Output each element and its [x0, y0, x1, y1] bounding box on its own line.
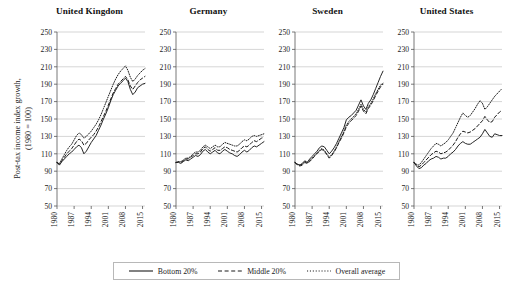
x-tick-label: 1980: [288, 212, 297, 227]
y-tick-label: 70: [163, 184, 171, 193]
legend-item[interactable]: Overall average: [306, 267, 386, 276]
y-tick-label: 90: [282, 167, 290, 176]
x-tick-label: 1980: [169, 212, 178, 227]
y-tick-label: 210: [41, 63, 53, 72]
y-tick-label: 190: [398, 80, 410, 89]
legend-key-solid-icon: [128, 267, 154, 275]
x-tick-label: 1987: [305, 212, 314, 227]
y-tick-label: 90: [401, 167, 409, 176]
x-tick-label: 2001: [220, 212, 229, 227]
y-tick-label: 150: [279, 115, 291, 124]
x-tick-label: 2001: [101, 212, 110, 227]
x-tick-label: 1987: [424, 212, 433, 227]
x-tick-label: 2015: [255, 212, 264, 227]
y-tick-label: 250: [279, 28, 291, 37]
panel-title: United States: [387, 6, 506, 16]
y-tick-label: 70: [44, 184, 52, 193]
y-tick-label: 50: [401, 202, 409, 211]
y-tick-label: 110: [279, 150, 290, 159]
y-tick-label: 250: [160, 28, 172, 37]
y-tick-label: 230: [398, 45, 410, 54]
x-tick-label: 2008: [118, 212, 127, 227]
y-tick-label: 130: [41, 132, 53, 141]
series-line-overall-average: [295, 83, 383, 165]
y-tick-label: 110: [398, 150, 409, 159]
y-tick-label: 210: [279, 63, 291, 72]
y-tick-label: 190: [160, 80, 172, 89]
y-tick-label: 190: [41, 80, 53, 89]
y-tick-label: 170: [279, 97, 291, 106]
y-tick-label: 90: [44, 167, 52, 176]
chart-legend: Bottom 20%Middle 20%Overall average: [113, 262, 400, 280]
series-line-bottom-20: [176, 142, 264, 164]
y-tick-label: 110: [41, 150, 52, 159]
x-tick-label: 2015: [136, 212, 145, 227]
x-tick-label: 1994: [322, 212, 331, 227]
y-tick-label: 90: [163, 167, 171, 176]
chart-panel-sweden: Sweden5070901101301501701902102302501980…: [268, 0, 387, 258]
y-tick-label: 230: [160, 45, 172, 54]
chart-panel-united-kingdom: United Kingdom50709011013015017019021023…: [30, 0, 149, 258]
legend-key-dotted-icon: [306, 267, 332, 275]
y-tick-label: 150: [160, 115, 172, 124]
y-tick-label: 250: [41, 28, 53, 37]
y-tick-label: 170: [398, 97, 410, 106]
x-tick-label: 1994: [441, 212, 450, 227]
x-tick-label: 1980: [50, 212, 59, 227]
y-tick-label: 50: [163, 202, 171, 211]
series-line-overall-average: [57, 66, 145, 163]
panel-title: Germany: [149, 6, 268, 16]
y-tick-label: 150: [398, 115, 410, 124]
y-tick-label: 230: [41, 45, 53, 54]
x-tick-label: 2001: [458, 212, 467, 227]
y-tick-label: 130: [398, 132, 410, 141]
x-tick-label: 2015: [493, 212, 502, 227]
series-line-middle-20: [57, 76, 145, 164]
x-tick-label: 2001: [339, 212, 348, 227]
series-line-bottom-20: [295, 71, 383, 165]
legend-item[interactable]: Middle 20%: [217, 267, 286, 276]
x-tick-label: 1987: [67, 212, 76, 227]
y-tick-label: 70: [282, 184, 290, 193]
y-tick-label: 130: [279, 132, 291, 141]
x-tick-label: 1994: [84, 212, 93, 227]
x-tick-label: 2008: [356, 212, 365, 227]
panel-title: United Kingdom: [30, 6, 149, 16]
y-tick-label: 50: [282, 202, 290, 211]
chart-panel-germany: Germany507090110130150170190210230250198…: [149, 0, 268, 258]
y-tick-label: 50: [44, 202, 52, 211]
legend-label: Middle 20%: [247, 267, 286, 276]
x-tick-label: 2008: [237, 212, 246, 227]
x-tick-label: 2008: [475, 212, 484, 227]
plot-area: 5070901101301501701902102302501980198719…: [30, 22, 149, 258]
legend-label: Overall average: [336, 267, 386, 276]
y-tick-label: 150: [41, 115, 53, 124]
figure-container: Post-tax income index growth, (1980 = 10…: [0, 0, 506, 291]
y-tick-label: 130: [160, 132, 172, 141]
y-tick-label: 210: [160, 63, 172, 72]
chart-panel-united-states: United States507090110130150170190210230…: [387, 0, 506, 258]
y-tick-label: 110: [160, 150, 171, 159]
plot-area: 5070901101301501701902102302501980198719…: [149, 22, 268, 258]
y-tick-label: 170: [160, 97, 172, 106]
y-tick-label: 190: [279, 80, 291, 89]
y-tick-label: 250: [398, 28, 410, 37]
y-tick-label: 210: [398, 63, 410, 72]
x-tick-label: 1987: [186, 212, 195, 227]
y-tick-label: 230: [279, 45, 291, 54]
panel-title: Sweden: [268, 6, 387, 16]
y-tick-label: 170: [41, 97, 53, 106]
plot-area: 5070901101301501701902102302501980198719…: [268, 22, 387, 258]
series-line-middle-20: [176, 137, 264, 162]
legend-key-dashed-icon: [217, 267, 243, 275]
legend-label: Bottom 20%: [158, 267, 198, 276]
plot-area: 5070901101301501701902102302501980198719…: [387, 22, 506, 258]
x-tick-label: 1980: [407, 212, 416, 227]
x-tick-label: 2015: [374, 212, 383, 227]
x-tick-label: 1994: [203, 212, 212, 227]
legend-item[interactable]: Bottom 20%: [128, 267, 198, 276]
panel-row: United Kingdom50709011013015017019021023…: [30, 0, 506, 258]
y-tick-label: 70: [401, 184, 409, 193]
series-line-bottom-20: [414, 129, 502, 168]
